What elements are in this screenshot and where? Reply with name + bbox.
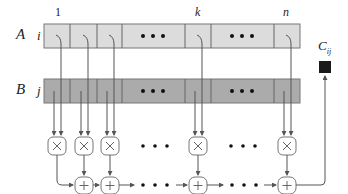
output-label-cij: Cij [318, 38, 331, 56]
row-b-vector [44, 79, 300, 103]
multiply-nodes [48, 137, 296, 155]
matrix-multiply-diagram: A i B j 1 k n Cij [0, 0, 348, 194]
column-index-j: j [37, 83, 41, 99]
diagram-svg [0, 0, 348, 194]
row-index-i: i [37, 28, 41, 44]
column-label-first: 1 [55, 5, 61, 20]
matrix-a-label: A [16, 26, 25, 43]
row-a-vector [44, 24, 300, 48]
output-cell-cij [319, 61, 331, 73]
output-label-subscript: ij [327, 47, 331, 56]
column-label-n: n [283, 5, 289, 20]
matrix-b-label: B [16, 81, 25, 98]
output-label-c: C [318, 38, 327, 53]
column-label-k: k [195, 5, 200, 20]
